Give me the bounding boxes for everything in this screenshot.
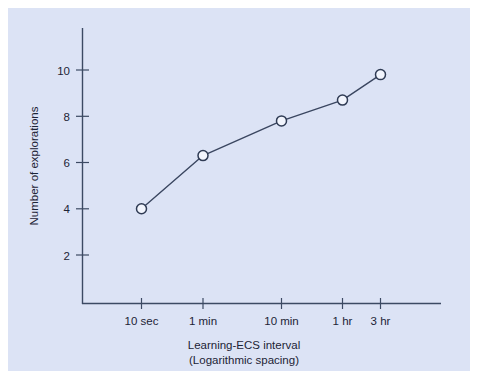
y-axis-tick-labels: 10 8 6 4 2 [57, 65, 70, 262]
line-chart: 10 8 6 4 2 10 sec 1 min 10 min 1 hr 3 hr… [0, 0, 484, 387]
data-point-10-min [277, 116, 287, 126]
y-tick-label-2: 2 [64, 250, 70, 262]
x-tick-label-10-sec: 10 sec [125, 315, 159, 327]
x-tick-label-10-min: 10 min [264, 315, 299, 327]
y-tick-label-8: 8 [64, 111, 70, 123]
x-tick-label-1-hr: 1 hr [333, 315, 353, 327]
x-tick-label-3-hr: 3 hr [371, 315, 391, 327]
y-tick-label-10: 10 [57, 65, 70, 77]
data-point-3-hr [376, 70, 386, 80]
y-axis-title: Number of explorations [28, 106, 40, 225]
x-axis-title: Learning-ECS interval [188, 339, 301, 351]
y-tick-label-6: 6 [64, 157, 70, 169]
y-tick-label-4: 4 [64, 203, 71, 215]
data-point-10-sec [137, 204, 147, 214]
data-point-1-min [198, 151, 208, 161]
data-point-markers [137, 70, 386, 214]
figure-root: 10 8 6 4 2 10 sec 1 min 10 min 1 hr 3 hr… [0, 0, 484, 387]
data-point-1-hr [338, 95, 348, 105]
x-axis-subtitle: (Logarithmic spacing) [189, 354, 299, 366]
x-tick-label-1-min: 1 min [189, 315, 217, 327]
x-axis-tick-labels: 10 sec 1 min 10 min 1 hr 3 hr [125, 315, 391, 327]
